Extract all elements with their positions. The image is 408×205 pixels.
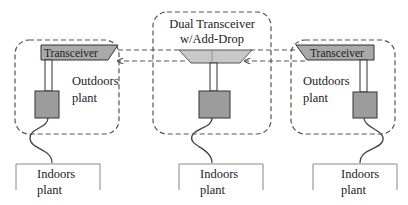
add-drop-unit <box>179 50 252 63</box>
left-site: Transceiver Outdoors plant Indoors plant <box>16 45 119 197</box>
right-outdoor-unit <box>353 92 377 118</box>
center-indoors-label-2: plant <box>200 183 226 197</box>
left-cable <box>30 118 52 163</box>
left-outdoors-label-2: plant <box>72 91 98 105</box>
right-cable <box>360 118 383 163</box>
left-mast <box>45 60 52 91</box>
right-site: Transceiver Outdoors plant Indoors plant <box>296 45 397 197</box>
left-indoors-label-1: Indoors <box>37 167 75 181</box>
left-transceiver-label: Transceiver <box>44 47 98 59</box>
center-mast <box>210 63 217 91</box>
network-diagram: Transceiver Outdoors plant Indoors plant… <box>0 0 408 205</box>
right-transceiver-label: Transceiver <box>310 47 364 59</box>
center-title-line2: w/Add-Drop <box>180 32 244 46</box>
right-outdoors-label-2: plant <box>303 91 329 105</box>
center-indoors-label-1: Indoors <box>200 167 238 181</box>
left-indoors-label-2: plant <box>37 183 63 197</box>
right-outdoors-label-1: Outdoors <box>303 74 350 88</box>
center-title-line1: Dual Transceiver <box>169 17 256 31</box>
center-site: Dual Transceiver w/Add-Drop Indoors plan… <box>169 17 263 197</box>
right-mast <box>360 60 367 92</box>
center-cable <box>192 118 212 163</box>
center-outdoor-unit <box>199 91 230 118</box>
left-outdoors-label-1: Outdoors <box>72 74 119 88</box>
right-indoors-label-2: plant <box>341 183 367 197</box>
right-indoors-label-1: Indoors <box>341 167 379 181</box>
left-outdoor-unit <box>35 91 59 118</box>
